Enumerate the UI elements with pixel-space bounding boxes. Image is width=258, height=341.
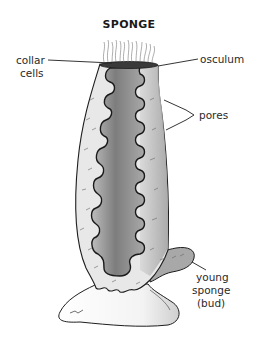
label-young: young — [196, 271, 229, 283]
label-cells: cells — [20, 67, 44, 79]
label-bud: (bud) — [197, 297, 225, 309]
label-sponge: sponge — [192, 284, 230, 296]
flagella — [103, 40, 154, 63]
label-pores: pores — [199, 109, 228, 121]
pores-leader-upper — [164, 100, 194, 115]
collar-cells-leader — [48, 60, 112, 63]
osculum-leader — [158, 59, 198, 66]
bud-leader — [192, 262, 206, 270]
pores-leader-lower — [166, 115, 194, 130]
label-osculum: osculum — [200, 53, 244, 65]
label-collar: collar — [16, 54, 45, 66]
